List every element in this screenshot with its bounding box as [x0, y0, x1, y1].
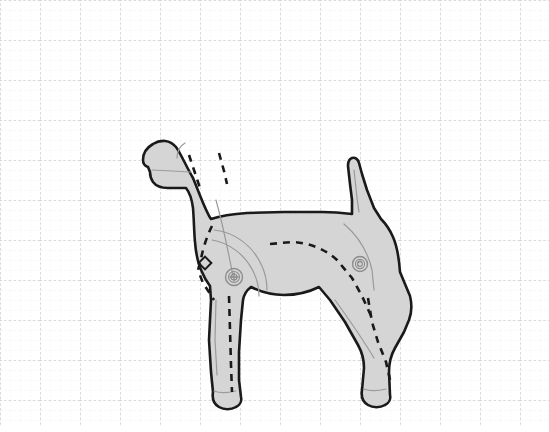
shoulder-joint[interactable]	[226, 269, 243, 286]
drawing-canvas: Line drawing of a dog in profile facing …	[0, 0, 549, 432]
dog-body-group[interactable]	[143, 141, 411, 409]
head-seam-line-2	[219, 153, 227, 184]
dog-figure-layer	[0, 0, 549, 432]
dog-body-outline[interactable]	[143, 141, 411, 409]
